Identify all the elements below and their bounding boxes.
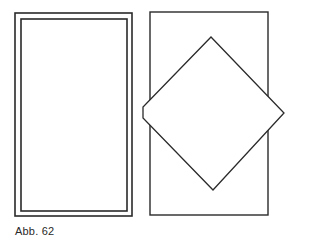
figure-canvas [0, 0, 309, 239]
outer-frame [15, 13, 132, 216]
figure-caption: Abb. 62 [15, 225, 54, 237]
inner-frame [21, 19, 127, 211]
rotated-square [143, 37, 284, 190]
double-frame-rectangle [15, 13, 132, 216]
rectangle-with-diamond [143, 12, 284, 215]
